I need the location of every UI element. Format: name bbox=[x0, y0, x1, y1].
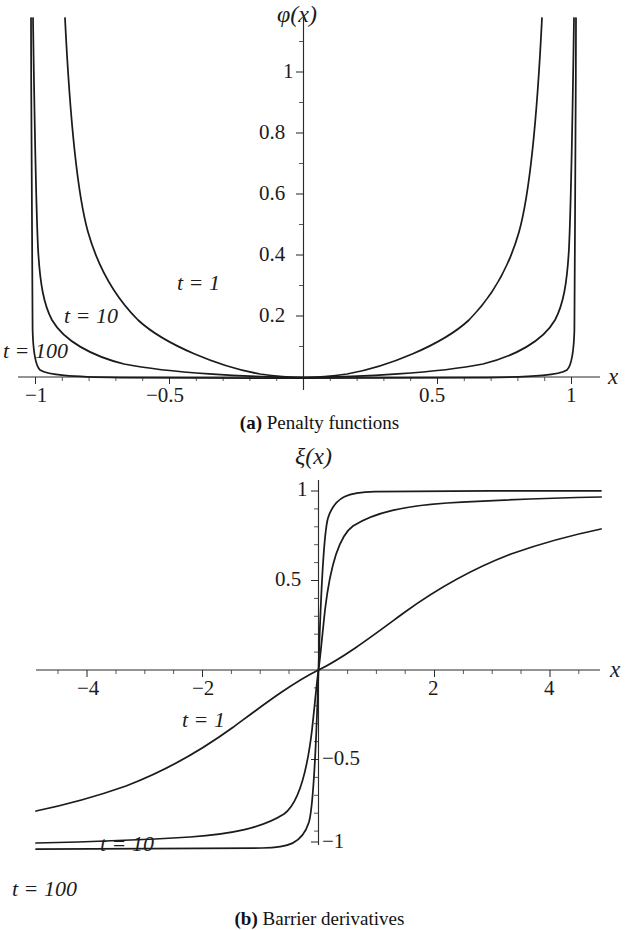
plot-a-function-title: φ(x) bbox=[277, 2, 317, 26]
curve-annotation-a-t10: t = 10 bbox=[64, 305, 118, 327]
plot-b-function-title: ξ(x) bbox=[295, 444, 332, 468]
x-tick-label-a-2: 0.5 bbox=[419, 385, 445, 406]
x-tick-label-a-0: −1 bbox=[25, 385, 47, 406]
curve-annotation-a-t100: t = 100 bbox=[3, 340, 68, 362]
curve-annotation-a-t1: t = 1 bbox=[177, 272, 220, 294]
panel-barrier-derivatives: ξ(x) x −4 −2 2 4 1 0.5 −0.5 −1 t = 1 t =… bbox=[0, 440, 639, 915]
y-tick-label-b-neg1: −1 bbox=[322, 831, 344, 852]
y-tick-label-a-1: 0.4 bbox=[259, 244, 285, 265]
y-tick-label-a-3: 0.8 bbox=[259, 122, 285, 143]
plot-a-canvas bbox=[0, 0, 639, 440]
caption-a-tag: (a) bbox=[240, 412, 262, 433]
x-tick-label-a-3: 1 bbox=[566, 385, 577, 406]
x-tick-label-b-1: −2 bbox=[192, 678, 214, 699]
caption-panel-a: (a) Penalty functions bbox=[0, 412, 639, 434]
y-tick-label-a-4: 1 bbox=[283, 61, 294, 82]
curve-annotation-b-t1: t = 1 bbox=[182, 709, 225, 731]
plot-a-x-axis-title: x bbox=[608, 365, 618, 388]
y-tick-label-a-2: 0.6 bbox=[259, 183, 285, 204]
panel-penalty-functions: φ(x) x −1 −0.5 0.5 1 0.2 0.4 0.6 0.8 1 t… bbox=[0, 0, 639, 440]
curve-annotation-b-t10: t = 10 bbox=[100, 833, 154, 855]
y-major-ticks-a bbox=[296, 72, 304, 316]
x-tick-label-b-0: −4 bbox=[77, 678, 99, 699]
y-tick-label-b-neg05: −0.5 bbox=[322, 748, 360, 769]
caption-b-text: Barrier derivatives bbox=[263, 908, 405, 929]
y-tick-label-b-05: 0.5 bbox=[275, 569, 301, 590]
caption-a-text: Penalty functions bbox=[267, 412, 399, 433]
caption-b-tag: (b) bbox=[235, 908, 258, 929]
plot-b-x-axis-title: x bbox=[610, 658, 620, 681]
x-tick-label-b-3: 4 bbox=[544, 678, 555, 699]
x-tick-label-b-2: 2 bbox=[428, 678, 439, 699]
y-tick-label-a-0: 0.2 bbox=[259, 305, 285, 326]
caption-panel-b: (b) Barrier derivatives bbox=[0, 908, 639, 930]
curve-annotation-b-t100: t = 100 bbox=[12, 878, 77, 900]
x-tick-label-a-1: −0.5 bbox=[146, 385, 184, 406]
y-tick-label-b-1: 1 bbox=[297, 479, 308, 500]
y-major-ticks-b bbox=[311, 491, 319, 842]
